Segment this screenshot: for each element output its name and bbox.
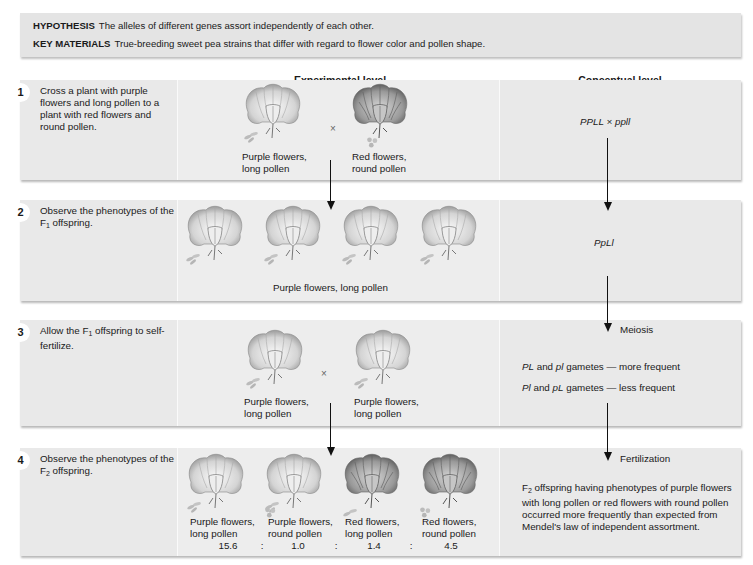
red-flower-icon — [417, 452, 483, 514]
ratio-value: 1.0 — [283, 540, 313, 551]
genotype-cross: PPLL × ppll — [580, 116, 630, 127]
conclusion-text: F2 offspring having phenotypes of purple… — [522, 482, 732, 533]
ratio-value: 15.6 — [213, 540, 243, 551]
arrow-down-icon — [327, 447, 335, 456]
step-2-panel: 2 Observe the phenotypes of the F1 offsp… — [20, 200, 741, 301]
purple-flower-icon — [242, 328, 308, 390]
step-number: 2 — [11, 203, 30, 222]
step-description: Allow the F1 offspring to self-fertilize… — [40, 325, 175, 352]
purple-flower-icon — [416, 204, 482, 266]
arrow-line — [607, 403, 608, 452]
hypothesis-box: HYPOTHESISThe alleles of different genes… — [20, 13, 741, 57]
flower-label: Purple flowers,long pollen — [354, 396, 419, 420]
flower-label: Purple flowers,round pollen — [268, 516, 333, 540]
purple-flower-icon — [350, 328, 416, 390]
flower-label: Purple flowers,long pollen — [242, 151, 307, 175]
ratio-separator: : — [331, 540, 341, 551]
arrow-down-icon — [604, 452, 612, 461]
ratio-separator: : — [406, 540, 416, 551]
arrow-line — [607, 276, 608, 326]
arrow-down-icon — [327, 201, 335, 210]
gametes-more-frequent: PL and pl gametes — more frequent — [522, 361, 680, 372]
flower-label: Purple flowers,long pollen — [244, 396, 309, 420]
step-3-panel: 3 Allow the F1 offspring to self-fertili… — [20, 320, 741, 426]
purple-flower-icon — [260, 204, 326, 266]
purple-flower-icon — [338, 204, 404, 266]
arrow-down-icon — [604, 202, 612, 211]
step-number: 1 — [11, 83, 30, 102]
flower-label: Red flowers,long pollen — [345, 516, 399, 540]
step-description: Observe the phenotypes of the F1 offspri… — [40, 205, 175, 232]
hypothesis: HYPOTHESISThe alleles of different genes… — [33, 19, 741, 37]
ratio-value: 1.4 — [359, 540, 389, 551]
arrow-line — [330, 160, 331, 201]
cross-symbol: × — [330, 123, 336, 134]
flower-label: Purple flowers, long pollen — [273, 282, 388, 294]
ratio-separator: : — [257, 540, 267, 551]
experimental-column — [177, 80, 500, 180]
cross-symbol: × — [321, 368, 327, 379]
arrow-line — [607, 138, 608, 203]
flower-label: Purple flowers,long pollen — [190, 516, 255, 540]
purple-flower-icon — [261, 452, 327, 514]
step-number: 3 — [11, 323, 30, 342]
arrow-down-icon — [604, 323, 612, 332]
key-materials: KEY MATERIALSTrue-breeding sweet pea str… — [33, 37, 741, 55]
flower-label: Red flowers,round pollen — [422, 516, 476, 540]
step-1-panel: 1 Cross a plant with purple flowers and … — [20, 80, 741, 180]
purple-flower-icon — [183, 452, 249, 514]
red-flower-icon — [347, 82, 413, 144]
fertilization-label: Fertilization — [620, 453, 670, 464]
flower-label: Red flowers,round pollen — [352, 151, 406, 175]
step-number: 4 — [11, 451, 30, 470]
step-description: Observe the phenotypes of the F2 offspri… — [40, 453, 175, 480]
purple-flower-icon — [182, 204, 248, 266]
step-4-panel: 4 Observe the phenotypes of the F2 offsp… — [20, 448, 741, 556]
red-flower-icon — [339, 452, 405, 514]
ratio-value: 4.5 — [436, 540, 466, 551]
arrow-line — [330, 403, 331, 450]
genotype: PpLl — [594, 237, 614, 248]
step-description: Cross a plant with purple flowers and lo… — [40, 85, 175, 133]
round-pollen-icon — [365, 136, 383, 149]
meiosis-label: Meiosis — [620, 324, 653, 335]
purple-flower-icon — [240, 82, 306, 144]
experimental-column — [177, 320, 500, 426]
gametes-less-frequent: Pl and pL gametes — less frequent — [522, 382, 675, 393]
